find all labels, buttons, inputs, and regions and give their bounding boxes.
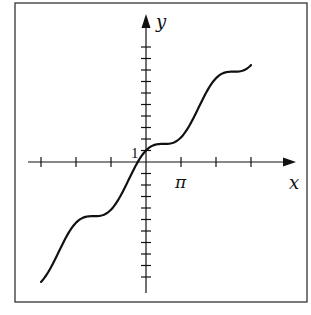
y-axis-label: y (155, 11, 167, 32)
x-axis-label: x (289, 172, 299, 193)
x-axis-arrow-icon (283, 158, 296, 167)
y-axis-arrow-icon (142, 14, 151, 28)
function-graph: y x 1 π (0, 0, 311, 315)
y-tick-label-1: 1 (131, 145, 139, 161)
figure-frame (15, 3, 307, 302)
x-axis (28, 157, 296, 167)
x-tick-label-pi: π (174, 172, 187, 192)
